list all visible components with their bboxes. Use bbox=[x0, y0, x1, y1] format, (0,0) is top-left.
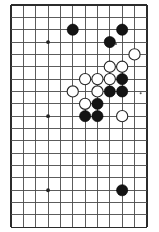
stone-black-c9r7[interactable] bbox=[117, 86, 128, 97]
hoshi-point-0 bbox=[46, 40, 50, 44]
stone-white-c9r5[interactable] bbox=[117, 61, 128, 72]
stone-white-c6r8[interactable] bbox=[80, 98, 91, 109]
stone-white-c8r6[interactable] bbox=[104, 74, 115, 85]
board-mark-dot-1 bbox=[140, 92, 142, 94]
stone-black-c9r15[interactable] bbox=[117, 185, 128, 196]
stone-white-c9r9[interactable] bbox=[117, 111, 128, 122]
stone-black-c8r3[interactable] bbox=[104, 36, 115, 47]
stone-black-c7r9[interactable] bbox=[92, 111, 103, 122]
stone-black-c9r2[interactable] bbox=[117, 24, 128, 35]
go-board-diagram bbox=[0, 0, 159, 232]
stone-black-c6r9[interactable] bbox=[80, 111, 91, 122]
stone-white-c10r4[interactable] bbox=[129, 49, 140, 60]
stone-white-c8r5[interactable] bbox=[104, 61, 115, 72]
stone-white-c7r6[interactable] bbox=[92, 74, 103, 85]
stone-black-c9r6[interactable] bbox=[117, 74, 128, 85]
stone-black-c8r7[interactable] bbox=[104, 86, 115, 97]
stone-black-c5r2[interactable] bbox=[67, 24, 78, 35]
stone-black-c7r8[interactable] bbox=[92, 98, 103, 109]
go-board-svg[interactable] bbox=[0, 0, 159, 232]
stone-white-c6r6[interactable] bbox=[80, 74, 91, 85]
stone-white-c5r7[interactable] bbox=[67, 86, 78, 97]
hoshi-point-1 bbox=[46, 114, 50, 118]
hoshi-point-2 bbox=[46, 188, 50, 192]
stone-white-c7r7[interactable] bbox=[92, 86, 103, 97]
